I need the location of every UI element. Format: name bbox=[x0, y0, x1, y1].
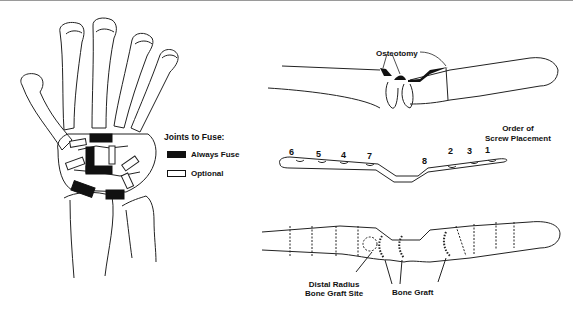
screw-order-caption-line2: Screw Placement bbox=[485, 134, 551, 144]
osteotomy-label: Osteotomy bbox=[376, 49, 418, 58]
screw-order-caption: Order of Screw Placement bbox=[485, 124, 551, 144]
screw-number: 6 bbox=[289, 148, 294, 157]
always-fuse-joint bbox=[86, 166, 112, 174]
middle-finger-bone bbox=[92, 18, 116, 128]
always-fuse-joint bbox=[71, 181, 95, 198]
legend-item-always-fuse: Always Fuse bbox=[167, 150, 239, 159]
lateral-osteotomy-illustration bbox=[268, 58, 558, 109]
hand-dorsal-illustration bbox=[21, 18, 178, 278]
fixation-illustration bbox=[262, 222, 560, 284]
screw-number: 7 bbox=[367, 152, 372, 161]
osteotomy-wedge bbox=[408, 67, 448, 82]
always-fuse-joint bbox=[106, 190, 124, 199]
osteotomy-wedges bbox=[380, 67, 448, 82]
ulna-bone bbox=[122, 196, 156, 262]
legend-title: Joints to Fuse: bbox=[164, 133, 224, 142]
legend-label: Optional bbox=[191, 169, 223, 178]
screw-number: 8 bbox=[422, 157, 427, 166]
osteotomy-wedge bbox=[380, 68, 392, 76]
thumb-bone bbox=[21, 74, 72, 150]
graft-site-label: Distal Radius Bone Graft Site bbox=[305, 280, 363, 298]
optional-joint bbox=[122, 156, 139, 171]
optional-joint bbox=[121, 173, 133, 189]
radius-bone bbox=[64, 192, 113, 278]
osteotomy-wedge bbox=[394, 76, 406, 81]
bone-graft-label: Bone Graft bbox=[392, 288, 433, 297]
legend-item-optional: Optional bbox=[167, 169, 223, 178]
little-finger-bone bbox=[131, 49, 178, 132]
screw-number: 3 bbox=[467, 147, 472, 156]
screw-number: 2 bbox=[448, 147, 453, 156]
graft-site-label-line2: Bone Graft Site bbox=[305, 289, 363, 298]
legend-swatch-outline bbox=[167, 170, 186, 177]
legend-swatch-filled bbox=[167, 151, 186, 158]
ring-finger-bone bbox=[114, 33, 153, 128]
legend-label: Always Fuse bbox=[191, 150, 239, 159]
fixation-plate bbox=[279, 157, 506, 182]
screw-order-caption-line1: Order of bbox=[485, 124, 551, 134]
optional-joint bbox=[109, 146, 115, 164]
always-fuse-joint bbox=[90, 134, 112, 142]
screw-number: 4 bbox=[341, 151, 346, 160]
graft-site-label-line1: Distal Radius bbox=[305, 280, 363, 289]
index-finger-bone bbox=[60, 22, 84, 130]
optional-joint bbox=[66, 157, 85, 170]
screw-number: 1 bbox=[485, 146, 490, 155]
screw-number: 5 bbox=[316, 150, 321, 159]
